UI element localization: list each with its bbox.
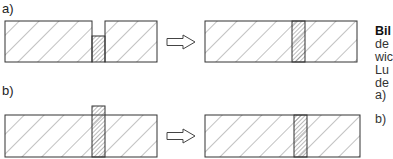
row-b-insert [92, 106, 105, 157]
row-b-block [5, 115, 157, 157]
row-a-arrow-icon [167, 35, 195, 49]
row-a-result-block [205, 21, 357, 62]
row-b-result-block [205, 115, 360, 157]
row-a-insert [92, 36, 105, 62]
row-b-before [5, 106, 157, 157]
row-a-before [5, 21, 157, 62]
row-a-result-insert [292, 21, 305, 62]
caption-item-a: a) [375, 89, 386, 102]
caption-item-b: b) [375, 113, 386, 126]
row-a-after [205, 21, 357, 62]
row-a-left-block [5, 21, 92, 62]
row-b-result-insert [294, 115, 307, 157]
row-a-right-block [105, 21, 157, 62]
row-b-arrow-icon [167, 129, 195, 143]
row-b-after [205, 115, 360, 157]
